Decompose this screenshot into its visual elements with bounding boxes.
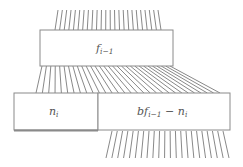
wire-line [154,10,157,30]
wire-line [212,131,217,158]
wire-line [60,10,63,30]
input-wires [55,10,161,30]
fanout-wires [36,66,220,93]
wire-line [145,10,147,30]
wire-line [49,66,51,93]
wire-line [123,10,124,30]
wire-line [118,131,123,158]
wire-line [147,131,149,158]
wire-line [124,131,128,158]
wire-line [119,10,120,30]
wire-line [132,10,133,30]
wire-line [69,10,71,30]
wire-line [106,131,112,158]
wire-line [139,66,175,93]
wire-line [153,131,154,158]
wire-line [141,131,144,158]
wire-line [64,10,66,30]
wire-line [175,131,176,158]
wire-line [83,10,84,30]
wire-line [78,10,80,30]
wire-line [68,66,74,93]
wire-line [129,131,133,158]
wire-line [108,66,131,93]
wire-line [99,66,118,93]
wire-line [136,10,138,30]
wire-line [73,10,75,30]
wire-line [64,66,68,93]
wire-line [149,10,151,30]
diagram-canvas: fi−1 ni bfi−1 − ni [0,0,243,167]
wire-line [191,131,194,158]
wire-line [60,66,62,93]
wire-line [113,66,138,93]
wire-line [112,131,117,158]
wire-line [159,131,160,158]
wire-line [197,131,200,158]
wire-line [92,10,93,30]
wire-line [77,66,86,93]
wire-line [82,66,93,93]
wire-line [218,131,223,158]
wire-line [42,66,46,93]
wire-line [181,131,182,158]
wire-line [135,131,138,158]
wire-line [55,10,58,30]
wire-line [36,66,42,93]
output-wires [106,131,229,158]
wire-line [158,10,161,30]
wire-line [223,131,229,158]
wire-line [141,10,143,30]
wire-line [104,66,125,93]
wire-line [121,66,150,93]
wire-line [207,131,211,158]
wire-line [96,10,97,30]
label-bf-minus-n: bfi−1 − ni [137,105,188,119]
wire-line [87,10,88,30]
wire-line [202,131,206,158]
wire-line [186,131,188,158]
wire-line [128,10,129,30]
wire-line [73,66,81,93]
